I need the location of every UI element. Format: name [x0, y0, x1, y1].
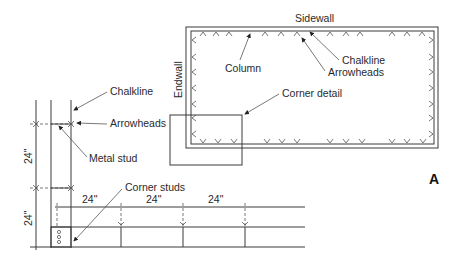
- arrowheads-label-plan: Arrowheads: [328, 66, 384, 78]
- dim-horizontal-2: 24": [146, 193, 162, 205]
- left-arrowheads: [192, 37, 196, 137]
- plan-view: Sidewall Endwall Column Chalkline Arrowh…: [170, 12, 439, 187]
- figure-label: A: [429, 171, 439, 187]
- corner-detail-view: 24" 24" 24" 24" 24" Chalkline Arrowheads…: [22, 85, 305, 250]
- corner-detail-box: [170, 115, 242, 165]
- framing-layout-diagram: Sidewall Endwall Column Chalkline Arrowh…: [0, 0, 462, 268]
- dim-vertical-lower: 24": [22, 210, 34, 226]
- corner-detail-label: Corner detail: [282, 87, 342, 99]
- arrowheads-leader-detail: [77, 123, 107, 124]
- column-leader: [240, 34, 250, 60]
- right-arrowheads: [429, 37, 433, 137]
- dim-horizontal-1: 24": [82, 193, 98, 205]
- detail-arrowheads: [33, 121, 74, 191]
- arrowheads-label-detail: Arrowheads: [110, 117, 166, 129]
- chalkline-label-plan: Chalkline: [342, 54, 385, 66]
- dim-horizontal-3: 24": [208, 193, 224, 205]
- metal-stud-label: Metal stud: [89, 152, 138, 164]
- corner-studs-label: Corner studs: [125, 181, 185, 193]
- metal-stud-leader: [59, 126, 87, 157]
- chalkline-leader-detail: [74, 92, 107, 110]
- corner-detail-leader: [245, 94, 279, 114]
- chalkline-label-detail: Chalkline: [110, 85, 153, 97]
- sidewall-label: Sidewall: [295, 12, 334, 24]
- endwall-label: Endwall: [172, 61, 184, 98]
- bottom-arrowheads: [200, 139, 426, 143]
- dim-vertical-upper: 24": [22, 148, 34, 164]
- column-label: Column: [225, 62, 261, 74]
